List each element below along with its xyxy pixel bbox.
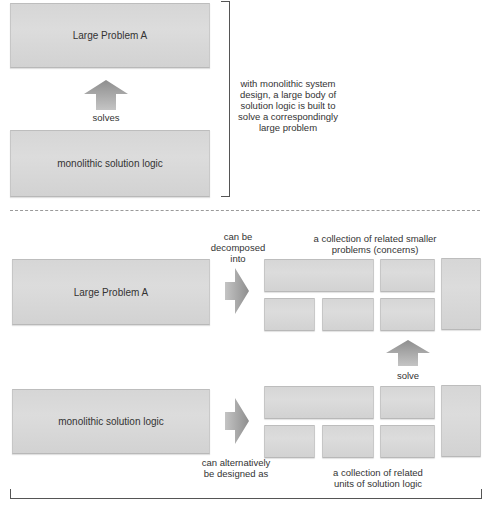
solution-unit-box — [264, 425, 315, 458]
solve-label: solve — [380, 370, 436, 381]
solution-unit-box — [441, 385, 481, 457]
large-problem-box-top: Large Problem A — [10, 3, 210, 68]
solution-unit-box — [264, 386, 374, 419]
concern-box — [264, 298, 315, 331]
monolithic-note: with monolithic system design, a large b… — [236, 78, 340, 133]
top-bracket — [221, 1, 230, 197]
large-problem-label: Large Problem A — [74, 287, 149, 298]
concern-box — [264, 259, 374, 292]
monolithic-solution-box-bottom: monolithic solution logic — [12, 389, 210, 454]
solution-collection-label: a collection of related units of solutio… — [322, 467, 434, 489]
solution-unit-box — [380, 425, 435, 458]
section-divider — [10, 210, 480, 211]
right-arrow-icon — [225, 398, 249, 444]
up-arrow-icon — [386, 340, 430, 366]
up-arrow-icon — [84, 80, 128, 110]
large-problem-label: Large Problem A — [73, 30, 148, 41]
monolithic-solution-label: monolithic solution logic — [57, 158, 163, 169]
decompose-label: can be decomposed into — [210, 231, 266, 264]
problems-collection-label: a collection of related smaller problems… — [310, 233, 440, 255]
solution-unit-box — [322, 425, 374, 458]
right-arrow-icon — [225, 268, 249, 314]
monolithic-solution-box-top: monolithic solution logic — [10, 130, 210, 197]
concern-box — [380, 259, 435, 292]
solves-label: solves — [70, 112, 142, 123]
concern-box — [380, 298, 435, 331]
concern-box — [441, 258, 481, 330]
bottom-bracket — [10, 489, 482, 499]
concern-box — [322, 298, 374, 331]
large-problem-box-bottom: Large Problem A — [12, 259, 210, 325]
alternative-label: can alternatively be designed as — [201, 457, 271, 479]
monolithic-solution-label: monolithic solution logic — [58, 416, 164, 427]
solution-unit-box — [380, 386, 435, 419]
